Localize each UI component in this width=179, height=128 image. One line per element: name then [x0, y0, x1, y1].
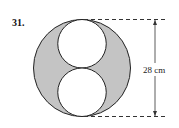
problem-number: 31.	[12, 17, 25, 28]
lower-inner-circle	[58, 68, 107, 117]
upper-inner-circle	[58, 20, 107, 69]
dimension-label: 28 cm	[143, 65, 165, 75]
figure-diagram: 31. 28 cm	[0, 0, 179, 128]
arrow-up-icon	[153, 20, 157, 25]
arrow-down-icon	[153, 111, 157, 116]
